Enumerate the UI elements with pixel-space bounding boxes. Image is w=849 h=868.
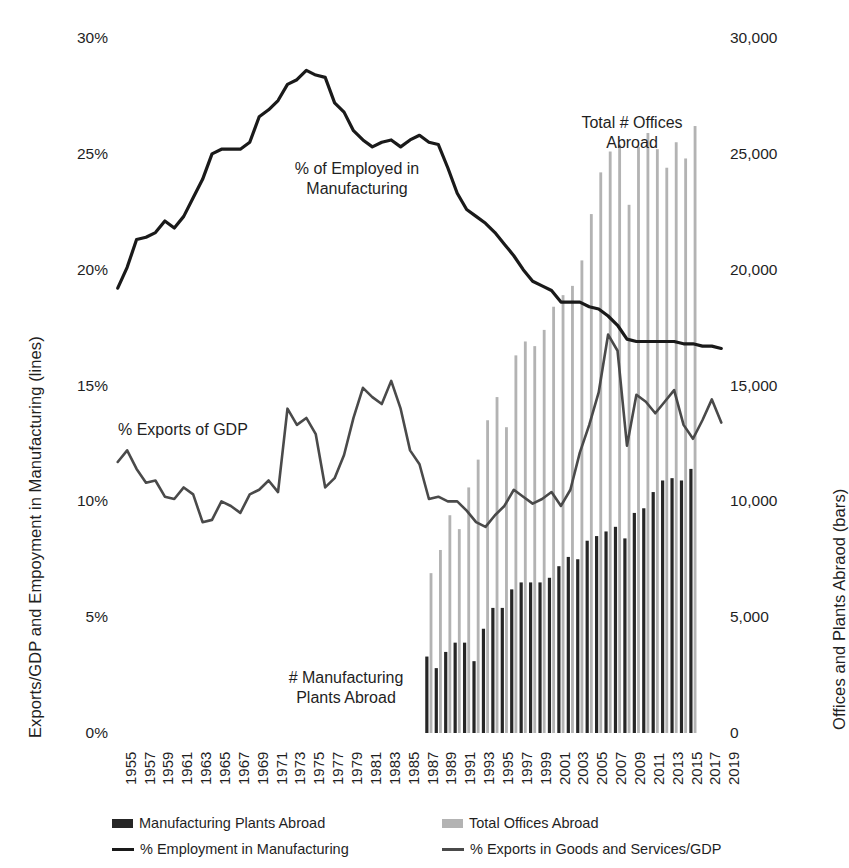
bar xyxy=(529,582,532,733)
bar xyxy=(510,589,513,733)
bar xyxy=(548,578,551,733)
x-axis-tick-label: 2007 xyxy=(613,752,628,785)
bar xyxy=(689,469,692,733)
bar xyxy=(477,460,480,733)
bar xyxy=(501,608,504,733)
x-axis-tick-label: 1995 xyxy=(500,752,515,785)
x-axis-tick-label: 1979 xyxy=(349,752,364,785)
bar xyxy=(430,573,433,733)
bar xyxy=(524,341,527,733)
x-axis-tick-label: 2003 xyxy=(575,752,590,785)
legend-item-label: % Exports in Goods and Services/GDP xyxy=(470,841,721,857)
bar xyxy=(454,643,457,733)
bar xyxy=(656,149,659,733)
bar xyxy=(580,260,583,733)
x-axis-tick-label: 1975 xyxy=(311,752,326,785)
x-axis-tick-label: 1973 xyxy=(292,752,307,785)
bar xyxy=(684,158,687,733)
bar xyxy=(652,492,655,733)
x-axis-tick-label: 1991 xyxy=(462,752,477,785)
x-axis-tick-label: 1955 xyxy=(123,752,138,785)
bar xyxy=(665,168,668,733)
bar xyxy=(628,205,631,733)
x-axis-tick-label: 2017 xyxy=(707,752,722,785)
x-axis-tick-label: 2011 xyxy=(651,753,666,785)
bar xyxy=(623,538,626,733)
legend-item[interactable]: Manufacturing Plants Abroad xyxy=(112,815,442,831)
x-axis-tick-label: 1987 xyxy=(425,752,440,785)
x-axis-tick-label: 1981 xyxy=(368,752,383,785)
series-total-offices-abroad-bars xyxy=(430,126,697,733)
bar xyxy=(675,142,678,733)
x-axis-tick-label: 1993 xyxy=(481,752,496,785)
x-axis-tick-label: 1983 xyxy=(387,752,402,785)
bar xyxy=(458,529,461,733)
bar xyxy=(557,566,560,733)
bar xyxy=(562,295,565,733)
x-axis-tick-label: 1965 xyxy=(217,752,232,785)
bar xyxy=(571,286,574,733)
bar xyxy=(448,515,451,733)
bar xyxy=(590,214,593,733)
bar xyxy=(642,508,645,733)
annotation-plants: # Manufacturing Plants Abroad xyxy=(248,668,444,707)
bar xyxy=(670,478,673,733)
bar xyxy=(609,152,612,733)
bar xyxy=(637,147,640,733)
bar xyxy=(567,557,570,733)
x-axis-tick-label: 1963 xyxy=(198,752,213,785)
legend-item[interactable]: % Exports in Goods and Services/GDP xyxy=(442,841,772,857)
legend-line-swatch-icon xyxy=(442,848,464,851)
x-axis-tick-label: 1999 xyxy=(538,752,553,785)
bar xyxy=(505,427,508,733)
bar xyxy=(538,582,541,733)
x-axis-tick-label: 1957 xyxy=(142,752,157,785)
bar xyxy=(604,531,607,733)
x-axis-tick-label: 1961 xyxy=(179,752,194,785)
bar xyxy=(586,541,589,733)
x-axis-tick-label: 2015 xyxy=(689,752,704,785)
legend-line-swatch-icon xyxy=(112,848,134,851)
x-axis-tick-label: 1959 xyxy=(160,752,175,785)
x-axis-tick-label: 1985 xyxy=(406,752,421,785)
bar xyxy=(486,420,489,733)
x-axis-tick-label: 2005 xyxy=(594,752,609,785)
x-axis-tick-label: 1989 xyxy=(443,752,458,785)
x-axis-tick-label: 2019 xyxy=(726,752,741,785)
x-axis-tick-label: 1969 xyxy=(255,752,270,785)
bar xyxy=(661,480,664,733)
x-axis-tick-label: 1967 xyxy=(236,752,251,785)
bar xyxy=(543,330,546,733)
bar xyxy=(514,355,517,733)
bar xyxy=(444,652,447,733)
annotation-offices: Total # Offices Abroad xyxy=(552,113,712,152)
legend-item-label: Total Offices Abroad xyxy=(469,815,599,831)
legend-bar-swatch-icon xyxy=(112,819,133,828)
x-axis-tick-label: 2009 xyxy=(632,752,647,785)
bar xyxy=(496,397,499,733)
bar xyxy=(576,559,579,733)
x-axis-tick-label: 2013 xyxy=(670,752,685,785)
x-axis-tick-label: 1971 xyxy=(274,752,289,785)
bar xyxy=(482,629,485,733)
x-axis-tick-label: 1997 xyxy=(519,752,534,785)
bar xyxy=(680,480,683,733)
bar xyxy=(520,582,523,733)
bar xyxy=(463,643,466,733)
legend-item[interactable]: % Employment in Manufacturing xyxy=(112,841,442,857)
legend-item[interactable]: Total Offices Abroad xyxy=(442,815,772,831)
bar xyxy=(552,307,555,733)
bar xyxy=(467,487,470,733)
x-axis-tick-label: 2001 xyxy=(557,752,572,785)
legend-item-label: Manufacturing Plants Abroad xyxy=(139,815,325,831)
bar xyxy=(614,527,617,733)
annotation-employment: % of Employed in Manufacturing xyxy=(262,159,452,198)
bar xyxy=(633,513,636,733)
bar xyxy=(491,608,494,733)
x-axis-tick-label: 1977 xyxy=(330,752,345,785)
chart-legend: Manufacturing Plants AbroadTotal Offices… xyxy=(112,810,772,862)
bar xyxy=(647,133,650,733)
bar xyxy=(595,536,598,733)
bar xyxy=(694,126,697,733)
